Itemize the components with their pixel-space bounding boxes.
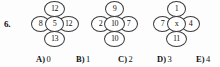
cluster-1-center-node: 5 bbox=[45, 16, 64, 32]
answer-choices: A)0 B)1 C)2 D)3 E)4 bbox=[0, 52, 220, 66]
cluster-2-top-node: 9 bbox=[105, 1, 124, 17]
answer-choice-d[interactable]: D)3 bbox=[157, 52, 172, 66]
answer-choice-e-label: E) bbox=[196, 54, 205, 64]
answer-choice-d-label: D) bbox=[157, 54, 166, 64]
answer-choice-a[interactable]: A)0 bbox=[36, 52, 51, 66]
cluster-2-bottom-node: 10 bbox=[104, 31, 125, 47]
answer-choice-b-label: B) bbox=[76, 54, 85, 64]
answer-choice-b-value: 1 bbox=[86, 54, 90, 64]
number-cluster-2: 9 2 10 7 10 bbox=[87, 1, 143, 48]
answer-choice-d-value: 3 bbox=[167, 54, 171, 64]
number-cluster-3: 1 7 x 4 11 bbox=[149, 1, 205, 48]
answer-choice-c-label: C) bbox=[118, 54, 127, 64]
answer-choice-e[interactable]: E)4 bbox=[196, 52, 210, 66]
cluster-1-top-node: 12 bbox=[44, 1, 65, 17]
question-number: 6. bbox=[4, 19, 10, 29]
cluster-3-center-node: x bbox=[167, 16, 186, 32]
answer-choice-e-value: 4 bbox=[206, 54, 210, 64]
number-cluster-1: 12 8 5 12 13 bbox=[27, 1, 83, 48]
answer-choice-b[interactable]: B)1 bbox=[76, 52, 90, 66]
answer-choice-a-value: 0 bbox=[46, 54, 50, 64]
cluster-3-top-node: 1 bbox=[167, 1, 186, 17]
cluster-2-center-node: 10 bbox=[104, 16, 125, 32]
answer-choice-c-value: 2 bbox=[128, 54, 132, 64]
answer-choice-a-label: A) bbox=[36, 54, 45, 64]
cluster-3-bottom-node: 11 bbox=[166, 31, 187, 47]
cluster-1-bottom-node: 13 bbox=[44, 31, 65, 47]
question-figure: 6. 12 8 5 12 13 9 2 10 7 10 1 7 x 4 11 A… bbox=[0, 0, 220, 67]
answer-choice-c[interactable]: C)2 bbox=[118, 52, 133, 66]
